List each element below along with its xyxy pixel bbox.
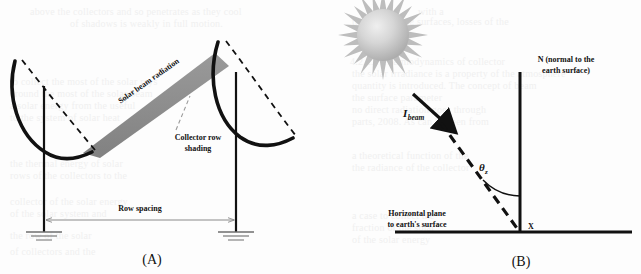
panel-b-caption: (B) [512,254,531,270]
solar-beam-band [83,53,229,158]
row-spacing-label: Row spacing [118,204,161,213]
solar-collector-geometry-figure: Row spacing Solar beam radiation Collect… [0,0,641,274]
zenith-angle-subscript: z [484,168,488,176]
beam-intensity-label: Ibeam [402,107,425,122]
zenith-angle-label: θz [479,161,488,176]
panel-a-caption: (A) [142,252,162,268]
collector-row-shading-label-line1: Collector row [175,133,222,142]
sun-graphic [338,0,428,80]
horizontal-plane-label-line2: to earth's surface [387,220,447,229]
panel-a: Row spacing Solar beam radiation Collect… [12,41,296,268]
parabolic-trough-left [12,61,92,159]
ground-symbol-right [218,232,254,240]
collector-row-shading-label-line2: shading [185,144,212,153]
parabolic-trough-right [213,42,293,145]
aperture-chord-left [22,60,95,150]
origin-point-label: X [528,222,534,231]
panel-b: N (normal to the earth surface) Ibeam θz… [338,0,632,270]
normal-label-line1: N (normal to the [538,55,595,64]
incident-beam-dashed-ray [441,123,519,231]
beam-intensity-subscript: beam [408,113,425,122]
ground-symbol-left [26,232,62,240]
sun-disc [357,9,409,61]
normal-label-line2: earth surface) [542,66,590,75]
horizontal-plane-label-line1: Horizontal plane [388,209,446,218]
